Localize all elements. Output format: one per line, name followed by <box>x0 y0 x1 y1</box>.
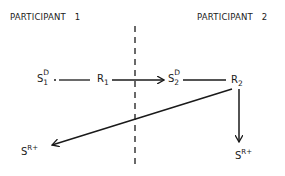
node-r2-base: R <box>231 74 238 85</box>
node-s1d-sup: D <box>43 69 49 77</box>
participant-2-label: PARTICIPANT 2 <box>197 12 267 22</box>
participant-1-label: PARTICIPANT 1 <box>10 12 80 22</box>
node-r2: R2 <box>231 75 243 88</box>
node-s2d-sub: 2 <box>174 79 179 87</box>
node-s1d: SD1 <box>37 74 51 84</box>
node-r1-base: R <box>97 73 104 84</box>
node-s2d: SD2 <box>168 74 182 84</box>
node-sr-right-sup: R+ <box>241 148 252 156</box>
node-sr-left-sup: R+ <box>27 144 38 152</box>
node-r1-sub: 1 <box>104 78 109 87</box>
node-r2-sub: 2 <box>238 79 243 88</box>
node-sr-left: SR+ <box>21 146 38 157</box>
node-sr-right: SR+ <box>235 150 252 161</box>
node-s2d-sup: D <box>174 69 180 77</box>
edge-r2-sr-left <box>52 89 232 145</box>
node-s1d-sub: 1 <box>43 79 48 87</box>
node-r1: R1 <box>97 74 109 87</box>
